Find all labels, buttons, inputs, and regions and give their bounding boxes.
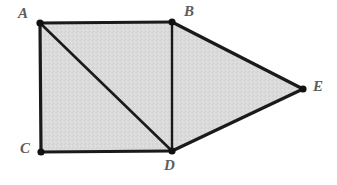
vertex-dot-d <box>168 147 175 154</box>
vertex-label-c: C <box>20 141 30 156</box>
vertex-label-e: E <box>313 79 323 94</box>
vertex-label-b: B <box>184 4 194 19</box>
geometry-figure: ABCDE <box>0 0 337 185</box>
edge-ca <box>40 23 41 152</box>
edge-dc <box>41 151 172 152</box>
vertex-label-a: A <box>18 6 28 21</box>
vertex-label-d: D <box>164 158 175 173</box>
edge-ab <box>40 22 172 23</box>
vertex-dot-c <box>37 148 44 155</box>
vertex-dot-e <box>299 85 306 92</box>
vertex-dot-b <box>168 18 175 25</box>
vertex-dot-a <box>36 19 43 26</box>
